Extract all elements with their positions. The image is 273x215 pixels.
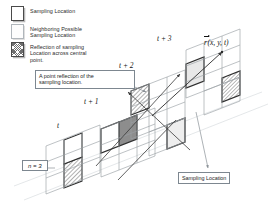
cell-sampling-t1	[101, 122, 119, 153]
legend-label-sampling-location: Sampling Location	[30, 6, 75, 14]
vector-arguments: (x, y, t)	[207, 38, 228, 47]
vector-symbol-r: r	[204, 38, 207, 47]
grid-plane-t	[46, 125, 100, 194]
legend-label-reflection: Reflection of sampling Location across c…	[30, 42, 87, 63]
cell-reflection-t3	[222, 71, 240, 102]
cell-sampling-t3	[186, 57, 204, 88]
outline-square-icon	[11, 24, 24, 39]
legend-item-neighboring-location: Neighboring Possible Sampling Location	[11, 24, 87, 39]
legend: Sampling Location Neighboring Possible S…	[11, 6, 87, 66]
plane-label-t-plus-1: t + 1	[84, 97, 98, 106]
plane-label-t-plus-3: t + 3	[157, 34, 171, 43]
white-square-icon	[11, 6, 24, 21]
vector-r-arrow	[152, 51, 223, 116]
callout-sampling-location: Sampling Location	[178, 172, 230, 184]
label-n-value: n = 3	[22, 160, 48, 171]
plane-label-t: t	[57, 121, 59, 130]
cell-sampling-t2	[167, 118, 185, 149]
hatched-square-icon	[11, 42, 24, 57]
legend-item-reflection: Reflection of sampling Location across c…	[11, 42, 87, 63]
figure-canvas: Sampling Location Neighboring Possible S…	[0, 0, 273, 215]
vector-label-r: r(x, y, t)	[204, 38, 229, 47]
callout-point-reflection: A point reflection of the sampling locat…	[35, 70, 135, 89]
plane-label-t-plus-2: t + 2	[119, 61, 133, 70]
legend-label-neighboring-location: Neighboring Possible Sampling Location	[30, 24, 82, 39]
legend-item-sampling-location: Sampling Location	[11, 6, 87, 21]
grid-plane-t2	[131, 70, 185, 156]
